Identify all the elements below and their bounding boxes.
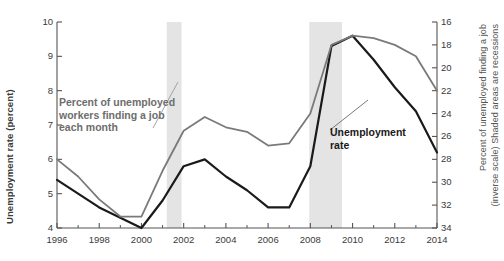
- x-tick-2012: 2012: [375, 234, 415, 245]
- y-tick-5: 5: [31, 188, 53, 199]
- y-tick-6: 6: [31, 153, 53, 164]
- y-tick-7: 7: [31, 119, 53, 130]
- annotation-unemployment-rate: Unemployment rate: [330, 126, 425, 151]
- x-tick-2004: 2004: [206, 234, 246, 245]
- chart-container: Unemployment rate (percent) Percent of u…: [0, 0, 504, 261]
- y2-tick-28: 28: [441, 153, 463, 164]
- x-tick-2010: 2010: [333, 234, 373, 245]
- y2-tick-24: 24: [441, 108, 463, 119]
- x-tick-1998: 1998: [79, 234, 119, 245]
- x-tick-1996: 1996: [37, 234, 77, 245]
- y-tick-4: 4: [31, 222, 53, 233]
- y2-tick-30: 30: [441, 176, 463, 187]
- y2-tick-32: 32: [441, 199, 463, 210]
- x-tick-2000: 2000: [121, 234, 161, 245]
- y-tick-10: 10: [31, 16, 53, 27]
- x-tick-2002: 2002: [164, 234, 204, 245]
- y2-tick-22: 22: [441, 85, 463, 96]
- y2-tick-20: 20: [441, 62, 463, 73]
- y-tick-9: 9: [31, 50, 53, 61]
- annotation-job-finding: Percent of unemployed workers finding a …: [59, 96, 229, 134]
- x-tick-2006: 2006: [248, 234, 288, 245]
- y2-tick-16: 16: [441, 16, 463, 27]
- x-tick-2014: 2014: [417, 234, 457, 245]
- y2-tick-18: 18: [441, 39, 463, 50]
- x-tick-2008: 2008: [290, 234, 330, 245]
- y-tick-8: 8: [31, 85, 53, 96]
- y2-tick-26: 26: [441, 130, 463, 141]
- y2-tick-34: 34: [441, 222, 463, 233]
